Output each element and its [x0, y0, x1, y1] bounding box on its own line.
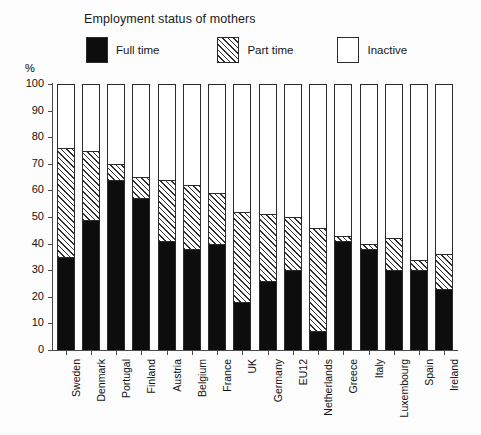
x-tick-mark — [217, 350, 218, 355]
chart-page: Employment status of mothers Full time P… — [0, 0, 481, 435]
x-tick-label-greece: Greece — [347, 359, 359, 393]
y-tick-label: 100 — [26, 77, 44, 89]
bar-segment-inactive — [208, 84, 226, 193]
bar-uk[interactable] — [233, 84, 251, 350]
bar-segment-part-time — [82, 151, 100, 220]
legend-label-full-time: Full time — [116, 44, 159, 56]
y-tick-mark — [48, 323, 53, 324]
bar-segment-full-time — [183, 249, 201, 350]
x-tick-label-finland: Finland — [145, 359, 157, 393]
bar-segment-inactive — [57, 84, 75, 148]
bar-segment-inactive — [233, 84, 251, 212]
bar-segment-full-time — [259, 281, 277, 350]
bar-segment-part-time — [132, 177, 150, 198]
bar-finland[interactable] — [132, 84, 150, 350]
y-tick-mark — [48, 297, 53, 298]
bar-segment-full-time — [158, 241, 176, 350]
bar-segment-inactive — [158, 84, 176, 180]
x-tick-label-denmark: Denmark — [95, 359, 107, 402]
bar-segment-inactive — [334, 84, 352, 236]
bar-segment-part-time — [183, 185, 201, 249]
x-axis-line — [52, 350, 458, 351]
x-tick-label-germany: Germany — [272, 359, 284, 402]
bar-sweden[interactable] — [57, 84, 75, 350]
bar-segment-part-time — [284, 217, 302, 270]
bar-segment-full-time — [132, 198, 150, 350]
bar-segment-part-time — [435, 254, 453, 289]
legend-label-part-time: Part time — [247, 44, 293, 56]
y-tick-label: 10 — [32, 316, 44, 328]
bar-germany[interactable] — [259, 84, 277, 350]
bar-segment-full-time — [410, 270, 428, 350]
y-tick-mark — [48, 190, 53, 191]
y-tick-mark — [48, 270, 53, 271]
x-tick-mark — [369, 350, 370, 355]
bar-segment-inactive — [385, 84, 403, 238]
bar-segment-full-time — [435, 289, 453, 350]
bar-segment-part-time — [233, 212, 251, 302]
x-tick-mark — [91, 350, 92, 355]
x-tick-label-france: France — [221, 359, 233, 392]
bar-segment-inactive — [435, 84, 453, 254]
y-tick-mark — [48, 350, 53, 351]
x-tick-mark — [444, 350, 445, 355]
bar-eu12[interactable] — [284, 84, 302, 350]
y-tick-mark — [48, 84, 53, 85]
bar-ireland[interactable] — [435, 84, 453, 350]
y-tick-label: 80 — [32, 130, 44, 142]
y-tick-label: 50 — [32, 210, 44, 222]
bar-segment-part-time — [309, 228, 327, 332]
legend-label-inactive: Inactive — [367, 44, 407, 56]
bar-segment-full-time — [385, 270, 403, 350]
x-tick-mark — [116, 350, 117, 355]
bar-segment-full-time — [309, 331, 327, 350]
bar-netherlands[interactable] — [309, 84, 327, 350]
x-tick-mark — [192, 350, 193, 355]
legend-swatch-inactive-icon — [337, 37, 359, 63]
y-tick-label: 30 — [32, 263, 44, 275]
bar-greece[interactable] — [334, 84, 352, 350]
x-tick-mark — [66, 350, 67, 355]
y-tick-mark — [48, 111, 53, 112]
x-tick-label-eu12: EU12 — [297, 359, 309, 385]
x-tick-label-italy: Italy — [373, 359, 385, 378]
bar-segment-part-time — [208, 193, 226, 244]
y-axis-label: % — [25, 62, 35, 74]
bar-austria[interactable] — [158, 84, 176, 350]
bar-italy[interactable] — [360, 84, 378, 350]
x-tick-mark — [167, 350, 168, 355]
x-tick-label-portugal: Portugal — [120, 359, 132, 398]
bar-luxembourg[interactable] — [385, 84, 403, 350]
legend-item-inactive: Inactive — [337, 37, 407, 63]
y-tick-label: 90 — [32, 104, 44, 116]
bar-segment-inactive — [410, 84, 428, 260]
page-title: Employment status of mothers — [84, 12, 256, 26]
bar-segment-inactive — [183, 84, 201, 185]
y-tick-mark — [48, 244, 53, 245]
x-tick-label-uk: UK — [246, 359, 258, 374]
bar-segment-inactive — [360, 84, 378, 244]
y-tick-label: 70 — [32, 157, 44, 169]
bar-denmark[interactable] — [82, 84, 100, 350]
bar-belgium[interactable] — [183, 84, 201, 350]
bar-segment-full-time — [360, 249, 378, 350]
bar-segment-inactive — [284, 84, 302, 217]
bar-spain[interactable] — [410, 84, 428, 350]
y-tick-mark — [48, 164, 53, 165]
x-tick-mark — [343, 350, 344, 355]
y-tick-mark — [48, 217, 53, 218]
bar-segment-full-time — [57, 257, 75, 350]
plot-area: 0102030405060708090100 — [53, 84, 457, 350]
x-tick-label-ireland: Ireland — [448, 359, 460, 391]
y-tick-label: 40 — [32, 237, 44, 249]
x-tick-mark — [242, 350, 243, 355]
bar-portugal[interactable] — [107, 84, 125, 350]
bar-france[interactable] — [208, 84, 226, 350]
x-tick-mark — [268, 350, 269, 355]
bar-segment-part-time — [158, 180, 176, 241]
bar-segment-inactive — [82, 84, 100, 151]
legend-item-full-time: Full time — [86, 37, 159, 63]
x-tick-label-sweden: Sweden — [70, 359, 82, 397]
y-tick-label: 0 — [38, 343, 44, 355]
bar-segment-full-time — [284, 270, 302, 350]
